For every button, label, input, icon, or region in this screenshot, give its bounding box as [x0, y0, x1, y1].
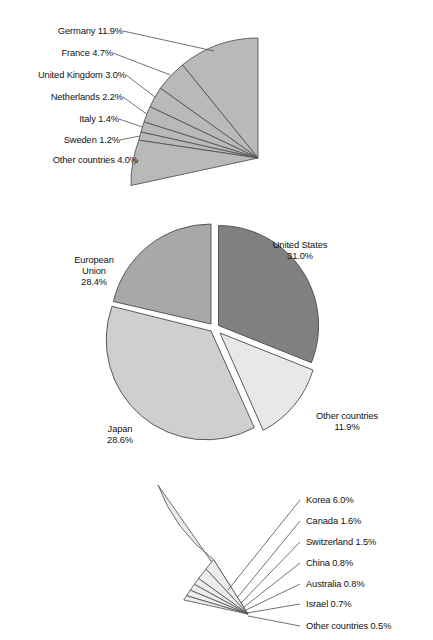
top-label-netherlands: Netherlands 2.2% — [51, 92, 123, 103]
pie-label-other-countries-value: 11.9% — [292, 422, 402, 433]
leader-sweden — [120, 136, 140, 140]
bottom-label-israel: Israel 0.7% — [306, 599, 351, 610]
leader-netherlands — [123, 97, 147, 114]
pie-label-japan: Japan 28.6% — [82, 424, 158, 446]
bottom-label-switzerland: Switzerland 1.5% — [306, 537, 376, 548]
pie-label-united-states-name: United States — [252, 240, 348, 251]
bottom-label-canada: Canada 1.6% — [306, 516, 361, 527]
pie-label-other-countries-name: Other countries — [292, 411, 402, 422]
top-label-united-kingdom: United Kingdom 3.0% — [38, 70, 126, 81]
pie-label-united-states: United States 31.0% — [252, 240, 348, 262]
top-label-other-countries: Other countries 4.0% — [53, 155, 138, 166]
leader-other-countries — [248, 616, 300, 626]
pie-label-european-union: European Union 28.4% — [55, 255, 133, 289]
bottom-label-china: China 0.8% — [306, 558, 353, 569]
pie-label-united-states-value: 31.0% — [252, 251, 348, 262]
top-label-italy: Italy 1.4% — [79, 114, 119, 125]
leader-korea — [228, 500, 300, 590]
pie-label-european-union-value: 28.4% — [55, 277, 133, 288]
pie-label-european-union-name1: European — [55, 255, 133, 266]
pie-label-european-union-name2: Union — [55, 266, 133, 277]
pie-label-other-countries: Other countries 11.9% — [292, 411, 402, 433]
leader-canada — [237, 521, 300, 598]
pie-label-japan-name: Japan — [82, 424, 158, 435]
bottom-label-korea: Korea 6.0% — [306, 495, 354, 506]
top-label-germany: Germany 11.9% — [58, 26, 123, 37]
leader-china — [244, 563, 300, 607]
leader-switzerland — [241, 542, 300, 603]
leader-australia — [246, 584, 300, 610]
pie-chart-figure: Germany 11.9% France 4.7% United Kingdom… — [0, 0, 433, 640]
leader-germany — [123, 31, 214, 51]
bottom-label-australia: Australia 0.8% — [306, 579, 365, 590]
top-label-sweden: Sweden 1.2% — [64, 135, 120, 146]
bottom-fan-chart — [158, 485, 300, 626]
pie-label-japan-value: 28.6% — [82, 435, 158, 446]
leader-italy — [119, 119, 142, 127]
bottom-label-other-countries: Other countries 0.5% — [306, 621, 391, 632]
top-label-france: France 4.7% — [61, 48, 113, 59]
leader-united-kingdom — [126, 75, 155, 97]
